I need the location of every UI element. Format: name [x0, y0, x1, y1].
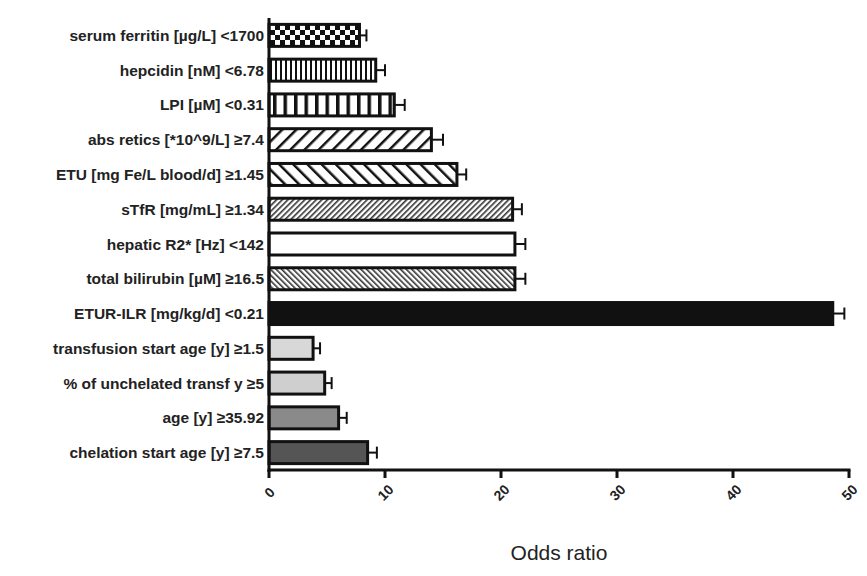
x-tick-label: 40 — [722, 481, 744, 503]
category-label: chelation start age [y] ≥7.5 — [69, 444, 264, 461]
bar-row: total bilirubin [µM] ≥16.5 — [86, 268, 525, 290]
category-label: ETU [mg Fe/L blood/d] ≥1.45 — [56, 166, 264, 183]
category-label: % of unchelated transf y ≥5 — [63, 375, 264, 392]
category-label: ETUR-ILR [mg/kg/d] <0.21 — [74, 305, 264, 322]
x-tick-label: 10 — [374, 481, 396, 503]
bar — [269, 24, 359, 46]
bar — [269, 268, 515, 290]
bar — [269, 303, 833, 325]
bar — [269, 337, 313, 359]
bar — [269, 407, 339, 429]
x-tick-label: 0 — [261, 484, 278, 501]
x-tick-label: 30 — [606, 481, 628, 503]
bar-row: LPI [µM] <0.31 — [160, 94, 405, 116]
category-label: age [y] ≥35.92 — [162, 409, 264, 426]
category-label: total bilirubin [µM] ≥16.5 — [86, 270, 264, 287]
bar-row: ETU [mg Fe/L blood/d] ≥1.45 — [56, 163, 466, 185]
bar-row: age [y] ≥35.92 — [162, 407, 346, 429]
category-label: LPI [µM] <0.31 — [160, 96, 264, 113]
category-label: hepatic R2* [Hz] <142 — [107, 236, 264, 253]
bar-row: ETUR-ILR [mg/kg/d] <0.21 — [74, 303, 844, 325]
category-label: hepcidin [nM] <6.78 — [120, 62, 265, 79]
bar-row: hepatic R2* [Hz] <142 — [107, 233, 526, 255]
bar — [269, 163, 457, 185]
bar-row: serum ferritin [µg/L] <1700 — [69, 24, 366, 46]
bar-row: transfusion start age [y] ≥1.5 — [53, 337, 320, 359]
bar — [269, 198, 513, 220]
odds-ratio-bar-chart: serum ferritin [µg/L] <1700hepcidin [nM]… — [0, 0, 867, 576]
bar — [269, 129, 431, 151]
bar — [269, 233, 515, 255]
bar — [269, 59, 376, 81]
bar-row: % of unchelated transf y ≥5 — [63, 372, 331, 394]
bar — [269, 372, 325, 394]
category-label: abs retics [*10^9/L] ≥7.4 — [88, 131, 264, 148]
x-tick-label: 20 — [490, 481, 512, 503]
category-label: transfusion start age [y] ≥1.5 — [53, 340, 264, 357]
bar-row: hepcidin [nM] <6.78 — [120, 59, 385, 81]
category-label: serum ferritin [µg/L] <1700 — [69, 27, 264, 44]
x-tick-label: 50 — [838, 481, 860, 503]
x-axis: 01020304050 — [261, 18, 861, 504]
x-axis-title: Odds ratio — [511, 541, 608, 564]
bar-row: chelation start age [y] ≥7.5 — [69, 442, 376, 464]
bar-row: sTfR [mg/mL] ≥1.34 — [121, 198, 522, 220]
bar — [269, 442, 368, 464]
plot-area: serum ferritin [µg/L] <1700hepcidin [nM]… — [53, 24, 844, 463]
bar-row: abs retics [*10^9/L] ≥7.4 — [88, 129, 443, 151]
category-label: sTfR [mg/mL] ≥1.34 — [121, 201, 264, 218]
bar — [269, 94, 394, 116]
